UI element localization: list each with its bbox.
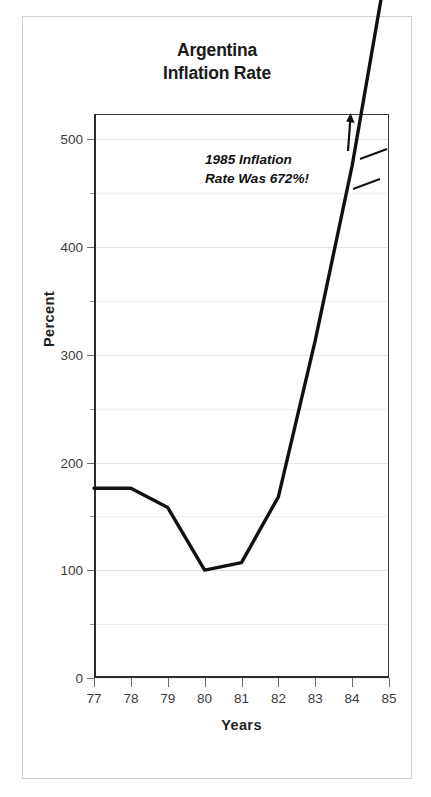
figure-frame: Argentina Inflation Rate Percent Years 0… (22, 16, 412, 779)
axis-break-icon (353, 149, 387, 189)
up-arrow-icon (346, 113, 354, 151)
off-scale-markers (23, 17, 413, 780)
